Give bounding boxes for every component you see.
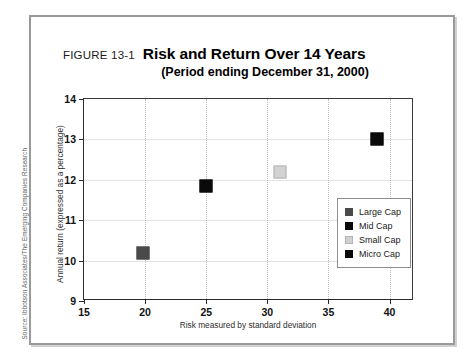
x-axis-tick — [390, 299, 391, 304]
gridline-vertical — [328, 99, 329, 299]
x-axis-tick — [328, 299, 329, 304]
y-axis-tick-label: 11 — [65, 214, 76, 226]
y-axis-tick-label: 12 — [64, 174, 76, 186]
x-axis-tick-label: 20 — [139, 306, 151, 318]
x-axis-tick — [145, 299, 146, 304]
gridline-horizontal — [84, 180, 412, 181]
x-axis-tick-label: 25 — [200, 306, 212, 318]
data-point-marker — [371, 133, 384, 146]
y-axis-tick — [79, 261, 84, 262]
data-point-marker — [200, 179, 213, 192]
legend-swatch-icon — [345, 222, 353, 230]
gridline-vertical — [145, 99, 146, 299]
x-axis-tick — [206, 299, 207, 304]
y-axis-tick — [79, 99, 84, 100]
data-point-marker — [273, 165, 286, 178]
data-point-marker — [136, 246, 149, 259]
legend-item-label: Micro Cap — [359, 249, 400, 259]
source-credit: Source: Ibbotson Associates/The Emerging… — [21, 140, 28, 340]
legend-item: Large Cap — [345, 205, 401, 219]
gridline-vertical — [206, 99, 207, 299]
x-axis-title: Risk measured by standard deviation — [83, 320, 413, 330]
legend-item-label: Small Cap — [359, 235, 401, 245]
y-axis-tick-label: 13 — [64, 133, 76, 145]
legend-swatch-icon — [345, 208, 353, 216]
y-axis-tick-label: 14 — [64, 93, 76, 105]
legend-item: Micro Cap — [345, 247, 401, 261]
gridline-horizontal — [84, 139, 412, 140]
legend-item-label: Large Cap — [359, 207, 401, 217]
chart-area: 91011121314152025303540 Risk measured by… — [31, 17, 457, 347]
y-axis-title: Annual return (expressed as a percentage… — [55, 109, 65, 299]
x-axis-tick — [267, 299, 268, 304]
x-axis-tick-label: 30 — [261, 306, 273, 318]
x-axis-tick-label: 40 — [384, 306, 396, 318]
y-axis-tick — [79, 220, 84, 221]
y-axis-tick — [79, 180, 84, 181]
gridline-vertical — [267, 99, 268, 299]
legend-item-label: Mid Cap — [359, 221, 393, 231]
legend-item: Small Cap — [345, 233, 401, 247]
x-axis-tick-label: 35 — [323, 306, 335, 318]
y-axis-tick — [79, 139, 84, 140]
y-axis-tick-label: 9 — [70, 295, 76, 307]
figure-screenshot: Source: Ibbotson Associates/The Emerging… — [0, 0, 472, 359]
y-axis-tick-label: 10 — [64, 255, 76, 267]
legend-item: Mid Cap — [345, 219, 401, 233]
chart-legend: Large CapMid CapSmall CapMicro Cap — [337, 198, 411, 268]
legend-swatch-icon — [345, 250, 353, 258]
x-axis-tick-label: 15 — [78, 306, 90, 318]
figure-frame: FIGURE 13-1 Risk and Return Over 14 Year… — [29, 15, 455, 345]
legend-swatch-icon — [345, 236, 353, 244]
x-axis-tick — [84, 299, 85, 304]
